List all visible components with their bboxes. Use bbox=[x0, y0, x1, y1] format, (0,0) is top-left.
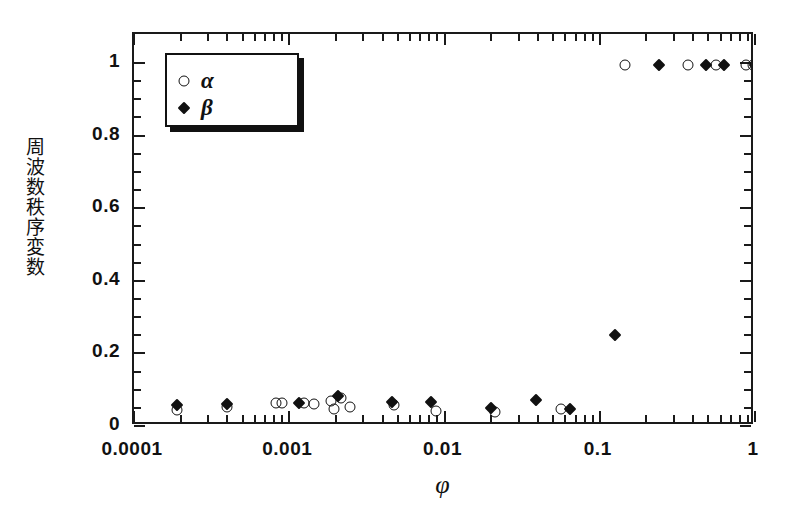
data-point-beta bbox=[530, 393, 543, 406]
data-point-alpha bbox=[309, 399, 320, 410]
legend-label-alpha: α bbox=[201, 69, 214, 92]
y-axis-tick-label: 0.4 bbox=[24, 268, 120, 290]
y-axis-title: 周波数秩序変数 bbox=[24, 137, 43, 337]
data-point-alpha bbox=[619, 59, 630, 70]
y-axis-tick-label: 1 bbox=[24, 50, 120, 72]
open-circle-icon bbox=[167, 71, 201, 91]
figure-canvas: 周波数秩序変数 α β 00.20.40.60.810.00010.0010.0… bbox=[0, 0, 795, 510]
y-axis-major-tick bbox=[134, 425, 145, 427]
legend-box: α β bbox=[165, 53, 299, 127]
legend-label-beta: β bbox=[201, 96, 213, 119]
y-axis-tick-label: 0 bbox=[24, 413, 120, 435]
legend-entry-alpha: α bbox=[167, 69, 297, 92]
x-axis-tick-label: 0.01 bbox=[423, 438, 462, 460]
x-axis-tick-label: 1 bbox=[747, 438, 758, 460]
x-axis-tick-label: 0.0001 bbox=[101, 438, 162, 460]
data-point-alpha bbox=[344, 402, 355, 413]
data-point-beta bbox=[608, 328, 621, 341]
x-axis-major-tick bbox=[754, 411, 756, 422]
data-point-alpha bbox=[329, 403, 340, 414]
data-point-alpha bbox=[277, 398, 288, 409]
x-axis-major-tick-top bbox=[754, 34, 756, 45]
y-axis-major-tick-right bbox=[740, 425, 751, 427]
plot-frame: α β bbox=[132, 32, 753, 424]
data-point-beta bbox=[563, 403, 576, 416]
data-point-beta bbox=[652, 58, 665, 71]
y-axis-tick-label: 0.8 bbox=[24, 123, 120, 145]
filled-diamond-icon bbox=[167, 98, 201, 118]
y-axis-tick-label: 0.2 bbox=[24, 340, 120, 362]
data-point-alpha bbox=[430, 406, 441, 417]
legend-entry-beta: β bbox=[167, 96, 297, 119]
data-point-alpha bbox=[682, 59, 693, 70]
x-axis-title: φ bbox=[383, 470, 503, 500]
x-axis-tick-label: 0.1 bbox=[584, 438, 612, 460]
data-point-beta bbox=[699, 58, 712, 71]
x-axis-tick-label: 0.001 bbox=[262, 438, 312, 460]
y-axis-tick-label: 0.6 bbox=[24, 195, 120, 217]
